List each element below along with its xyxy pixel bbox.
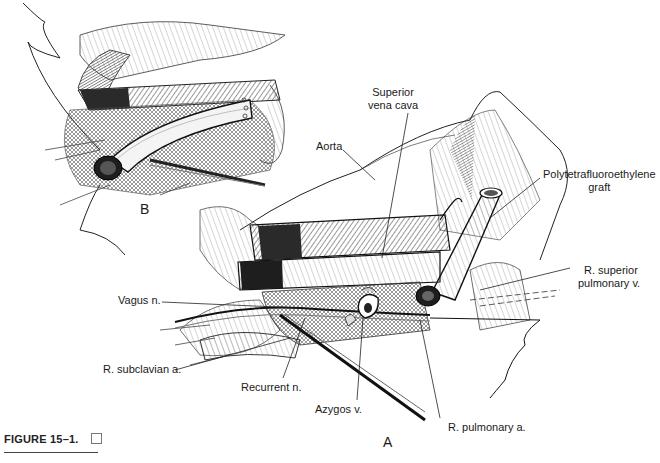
label-azygos-v: Azygos v. (315, 403, 362, 416)
panel-label-a: A (383, 434, 392, 450)
label-vagus-n: Vagus n. (118, 294, 161, 307)
checkbox-square-icon (91, 433, 102, 444)
surgical-illustration (0, 0, 660, 463)
label-ptfe-graft: Polytetrafluoroethylene graft (543, 168, 656, 194)
label-aorta: Aorta (316, 140, 342, 153)
figure-caption: FIGURE 15–1. (4, 433, 102, 445)
label-superior-vena-cava: Superior vena cava (368, 86, 418, 112)
label-r-superior-pulmonary-v: R. superior pulmonary v. (578, 264, 640, 290)
panel-label-b: B (140, 201, 149, 217)
label-recurrent-n: Recurrent n. (241, 381, 302, 394)
label-r-subclavian-a: R. subclavian a. (103, 363, 181, 376)
caption-underline (4, 452, 98, 453)
caption-label: FIGURE 15–1. (4, 433, 79, 445)
label-r-pulmonary-a: R. pulmonary a. (448, 421, 526, 434)
